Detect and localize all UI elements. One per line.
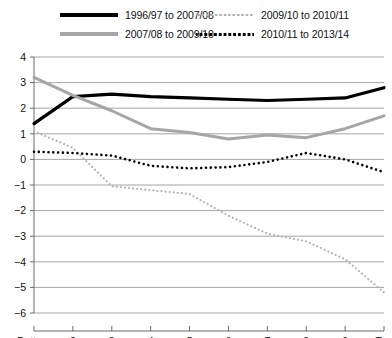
line-chart-svg: 43210−1−2−3−4−5−6Bottom23456789Top <box>0 48 392 338</box>
plot-area: 43210−1−2−3−4−5−6Bottom23456789Top <box>0 48 392 338</box>
y-axis-tick-label: −1 <box>14 179 26 191</box>
y-axis-tick-label: 1 <box>20 128 26 140</box>
legend-label-3: 2010/11 to 2013/14 <box>261 29 349 40</box>
series-line-2 <box>34 131 384 292</box>
y-axis-tick-label: −2 <box>14 204 26 216</box>
y-axis-tick-label: −5 <box>14 281 26 293</box>
y-axis-tick-label: 4 <box>20 51 26 63</box>
legend-swatch-solid-gray <box>60 27 118 41</box>
y-axis-tick-label: −6 <box>14 307 26 319</box>
legend-label-2: 2009/10 to 2010/11 <box>261 10 349 21</box>
y-axis-tick-label: −3 <box>14 230 26 242</box>
legend-item-2: 2009/10 to 2010/11 <box>196 8 349 22</box>
series-line-0 <box>34 88 384 124</box>
legend-swatch-dotted-gray <box>196 8 254 22</box>
y-axis-tick-label: 0 <box>20 153 26 165</box>
legend-swatch-solid-black <box>60 8 118 22</box>
y-axis-tick-label: 3 <box>20 76 26 88</box>
legend-item-3: 2010/11 to 2013/14 <box>196 27 349 41</box>
chart-container: 1996/97 to 2007/08 2007/08 to 2009/10 20… <box>0 0 392 338</box>
y-axis-tick-label: 2 <box>20 102 26 114</box>
legend-swatch-dotted-black <box>196 27 254 41</box>
chart-legend: 1996/97 to 2007/08 2007/08 to 2009/10 20… <box>0 0 392 48</box>
y-axis-tick-label: −4 <box>14 256 26 268</box>
legend-item-1: 2007/08 to 2009/10 <box>60 27 214 41</box>
legend-item-0: 1996/97 to 2007/08 <box>60 8 214 22</box>
